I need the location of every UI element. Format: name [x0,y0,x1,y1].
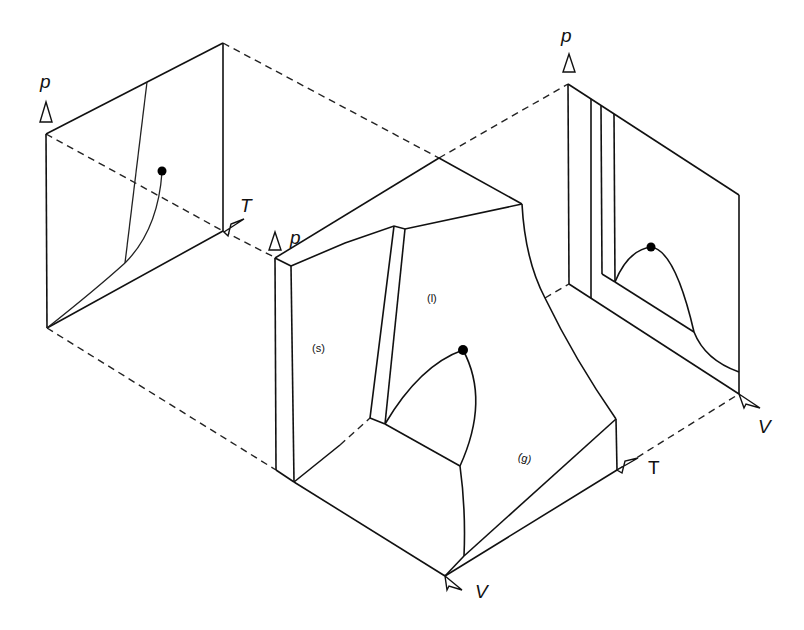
liquid-region-label: (l) [427,292,437,304]
dash-hidden-triple [340,418,370,445]
right-V-label: V [758,416,773,437]
left-panel-top-edge [46,43,223,134]
pV-dome-left [615,247,651,282]
left-p-label: p [39,71,51,92]
pV-projection-panel: p V [560,25,773,437]
main-T-arrow-icon [617,458,638,473]
pV-gas-curve [694,332,739,372]
fusion-line [125,82,147,263]
melting-line-liquid-side [385,229,405,424]
sublimation-curve [47,263,125,328]
triple-strip-bottom [370,418,385,424]
right-p-arrow-icon [563,54,575,72]
dash-left-bottom-to-main-bottom [47,328,276,470]
dash-left-to-main-top [223,231,276,258]
triple-line [385,424,460,466]
solid-front-edge [291,266,294,482]
left-critical-point [158,167,167,176]
dome-vapor-side [460,350,476,466]
left-p-arrow-icon [40,102,52,122]
surface-right-vertical [616,419,617,470]
main-V-axis [294,482,445,576]
main-p-arrow-icon [269,232,281,250]
gas-boundary-curve [460,466,465,556]
main-V-label: V [475,581,490,602]
solid-front-bottom [276,470,294,482]
main-V-arrow-icon [445,576,462,590]
dome-liquid-side [385,350,463,424]
right-p-axis [568,84,569,284]
pV-melting-right [614,114,615,282]
main-p-label: p [289,227,301,248]
gas-region-label: (g) [517,450,533,465]
pV-strip-bottom [602,274,615,282]
right-V-arrow-icon [739,394,760,408]
pvt-phase-diagram: p T p [0,0,804,630]
surface-top-front-edge [291,204,522,266]
main-T-axis [445,470,617,576]
left-T-arrow-icon [224,219,244,236]
solid-region-label: (s) [312,342,325,354]
main-critical-point [458,345,468,355]
right-critical-point [647,243,656,252]
left-p-axis [46,134,47,328]
left-T-label: T [240,195,253,216]
pT-projection-panel: p T [39,43,253,328]
surface-gas-edge [464,419,616,556]
main-T-label: T [648,457,660,478]
projection-dashed-lines [46,43,739,470]
solid-front-top [275,258,291,266]
dash-top-left-to-peak [223,43,439,158]
right-panel-top-edge [568,84,739,195]
melting-line-solid-side [370,226,394,418]
dash-peak-to-right-panel [439,84,568,158]
pV-melting-left [601,106,602,274]
right-p-label: p [560,25,572,46]
right-V-axis [569,284,739,394]
left-T-axis [47,231,223,328]
surface-top-right-edge [439,158,522,204]
main-p-axis [275,258,276,470]
solid-vapor-base-edge [294,445,340,482]
dash-main-to-right-panel [545,284,569,298]
